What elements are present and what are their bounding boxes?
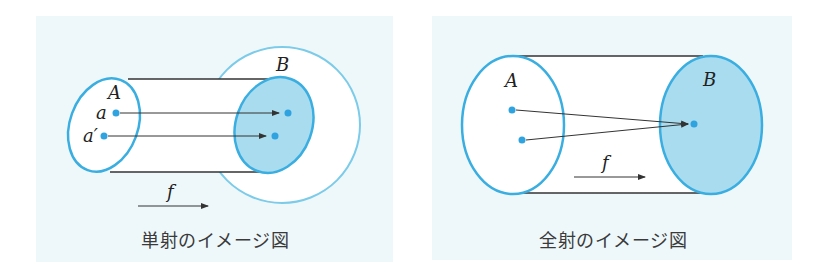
surjection-diagram: A B f <box>0 0 822 273</box>
set-b-label: B <box>702 69 716 90</box>
point-x2 <box>519 137 526 144</box>
set-a-label: A <box>503 70 518 91</box>
point-y <box>691 121 698 128</box>
surjection-caption: 全射のイメージ図 <box>539 226 687 252</box>
point-x1 <box>509 107 516 114</box>
